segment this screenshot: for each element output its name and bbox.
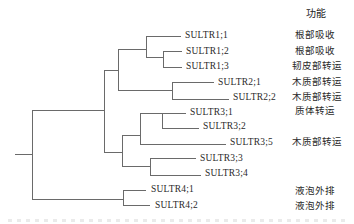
gene-label: SULTR4;2 bbox=[155, 201, 198, 211]
gene-label: SULTR2;2 bbox=[233, 93, 276, 103]
function-label: 根部吸收 bbox=[295, 31, 335, 41]
function-label: 根部吸收 bbox=[295, 47, 335, 57]
gene-label: SULTR3;3 bbox=[200, 154, 243, 164]
function-column-header: 功能 bbox=[306, 9, 326, 19]
function-label: 液泡外排 bbox=[295, 187, 335, 197]
gene-label: SULTR3;5 bbox=[230, 138, 273, 148]
gene-label: SULTR2;1 bbox=[218, 78, 261, 88]
gene-label: SULTR3;4 bbox=[205, 169, 248, 179]
gene-label: SULTR1;1 bbox=[185, 31, 228, 41]
phylogenetic-tree-figure: 功能 SULTR1;1SULTR1;2SULTR1;3SULTR2;1SULTR… bbox=[0, 0, 354, 224]
function-label: 木质部转运 bbox=[292, 78, 342, 88]
function-label: 液泡外排 bbox=[295, 202, 335, 212]
gene-label: SULTR1;2 bbox=[186, 47, 229, 57]
gene-label: SULTR1;3 bbox=[186, 62, 229, 72]
function-label: 质体转运 bbox=[295, 107, 335, 117]
cropped-caption-strip bbox=[8, 219, 346, 222]
function-label: 木质部转运 bbox=[292, 93, 342, 103]
function-label: 韧皮部转运 bbox=[292, 62, 342, 72]
gene-label: SULTR3;2 bbox=[203, 122, 246, 132]
gene-label: SULTR4;1 bbox=[151, 185, 194, 195]
gene-label: SULTR3;1 bbox=[190, 108, 233, 118]
function-label: 木质部转运 bbox=[292, 138, 342, 148]
